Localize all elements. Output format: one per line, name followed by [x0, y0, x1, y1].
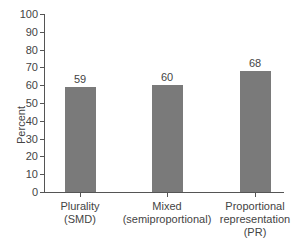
bar-value-label: 59: [60, 73, 100, 85]
y-tick: [40, 32, 44, 33]
y-tick: [40, 139, 44, 140]
y-tick-label: 30: [10, 133, 38, 145]
bar-value-label: 68: [235, 57, 275, 69]
bar: [240, 71, 271, 192]
y-axis: [44, 14, 45, 193]
y-tick-label: 60: [10, 79, 38, 91]
y-tick: [40, 67, 44, 68]
y-tick-label: 10: [10, 168, 38, 180]
bar: [65, 87, 96, 192]
bar: [152, 85, 183, 192]
x-tick: [80, 193, 81, 197]
y-tick: [40, 85, 44, 86]
y-tick: [40, 156, 44, 157]
y-tick-label: 20: [10, 150, 38, 162]
y-tick-label: 40: [10, 115, 38, 127]
x-category-label: Mixed(semiproportional): [117, 200, 217, 226]
x-category-label: Proportionalrepresentation(PR): [205, 200, 296, 239]
bar-value-label: 60: [147, 71, 187, 83]
y-tick-label: 70: [10, 61, 38, 73]
y-tick-label: 100: [10, 8, 38, 20]
x-tick: [167, 193, 168, 197]
y-tick: [40, 174, 44, 175]
x-tick: [255, 193, 256, 197]
y-tick: [40, 14, 44, 15]
y-tick: [40, 192, 44, 193]
y-tick-label: 90: [10, 26, 38, 38]
y-tick-label: 80: [10, 44, 38, 56]
y-tick: [40, 103, 44, 104]
x-category-label: Plurality(SMD): [30, 200, 130, 226]
y-tick: [40, 121, 44, 122]
y-tick-label: 0: [10, 186, 38, 198]
y-tick: [40, 50, 44, 51]
y-tick-label: 50: [10, 97, 38, 109]
